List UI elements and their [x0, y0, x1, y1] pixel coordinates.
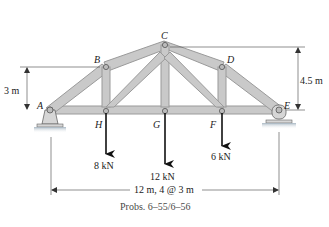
joint-F [219, 108, 224, 113]
member-DF [218, 67, 226, 107]
dim-label-right-height: 4.5 m [300, 75, 323, 86]
dim-label-span: 12 m, 4 @ 3 m [134, 184, 194, 195]
joint-C [162, 42, 167, 47]
joint-H [103, 108, 108, 113]
joint-label-F: F [209, 119, 217, 130]
joint-label-G: G [153, 119, 160, 130]
joint-label-C: C [161, 30, 168, 41]
joint-label-D: D [226, 54, 235, 65]
dim-label-left-height: 3 m [4, 85, 20, 96]
joint-label-B: B [94, 54, 100, 65]
member-BH [102, 67, 110, 107]
joint-label-A: A [36, 100, 44, 111]
truss-diagram: A H G F E B C D 8 kN 12 kN 6 kN 3 m 4.5 … [0, 0, 329, 227]
load-arrows [106, 113, 222, 164]
joint-G [162, 108, 167, 113]
joint-label-E: E [283, 100, 290, 111]
truss-members [46, 41, 283, 114]
load-label-F: 6 kN [211, 151, 231, 162]
load-label-G: 12 kN [150, 171, 175, 182]
figure-caption: Probs. 6–55/6–56 [120, 201, 191, 212]
joint-label-H: H [94, 119, 103, 130]
joint-B [103, 64, 108, 69]
load-label-H: 8 kN [94, 160, 114, 171]
joint-D [219, 64, 224, 69]
